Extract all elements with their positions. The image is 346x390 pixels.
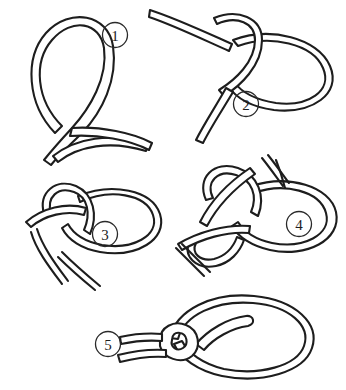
step-1-figure [31, 17, 152, 165]
step-label-3: 3 [93, 222, 118, 247]
step5-rope-tucked-end [196, 316, 253, 350]
step2-rope-small-loop [214, 14, 262, 96]
step5-rope-tail-upper [120, 334, 162, 344]
step3-rope-tail-a [31, 232, 62, 284]
step-2-number: 2 [242, 97, 250, 113]
step3-rope-bight [62, 189, 161, 253]
step-label-5: 5 [96, 332, 121, 357]
step2-rope-working-end [196, 88, 233, 143]
step-5-number: 5 [104, 337, 112, 353]
step-5-figure [118, 295, 314, 378]
step-4-figure [176, 155, 337, 276]
step3-rope-standing-part [26, 206, 86, 227]
step-1-number: 1 [111, 28, 119, 44]
step-3-figure [26, 184, 161, 290]
knot-illustration: 1 2 3 4 5 [0, 0, 346, 390]
step-2-figure [149, 10, 333, 143]
step4-rope-bight [232, 181, 337, 252]
step-4-number: 4 [295, 217, 303, 233]
step5-rope-tail-lower [118, 350, 166, 362]
knot-diagram: 1 2 3 4 5 [0, 0, 346, 390]
step-3-number: 3 [101, 227, 109, 243]
step-label-4: 4 [287, 212, 312, 237]
